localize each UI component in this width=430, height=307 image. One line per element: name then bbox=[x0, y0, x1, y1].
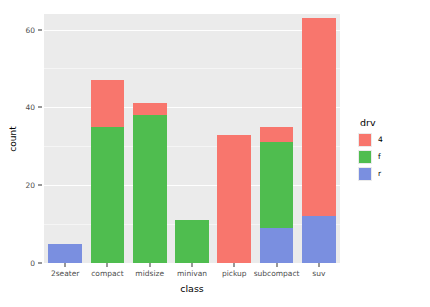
y-axis: count 0204060 bbox=[0, 14, 44, 263]
bar-group[interactable] bbox=[217, 14, 251, 263]
bar-chart: count 0204060 2seatercompactmidsizeminiv… bbox=[0, 0, 430, 307]
x-tick-label: subcompact bbox=[254, 269, 300, 278]
x-tick-label: suv bbox=[312, 269, 325, 278]
x-tick-mark bbox=[276, 263, 277, 267]
x-tick-mark bbox=[192, 263, 193, 267]
bar-segment-f[interactable] bbox=[133, 115, 167, 263]
bar-segment-4[interactable] bbox=[260, 127, 294, 143]
y-tick-label: 0 bbox=[30, 259, 35, 268]
x-tick-label: pickup bbox=[222, 269, 247, 278]
bar-segment-r[interactable] bbox=[260, 228, 294, 263]
y-tick-label: 60 bbox=[25, 25, 35, 34]
legend-label: f bbox=[378, 152, 381, 161]
y-tick-label: 20 bbox=[25, 181, 35, 190]
bar-segment-4[interactable] bbox=[91, 80, 125, 127]
legend-entries: 4fr bbox=[358, 132, 426, 181]
legend-title: drv bbox=[360, 117, 426, 128]
y-tick-mark bbox=[38, 29, 42, 30]
legend-key bbox=[358, 167, 372, 181]
legend-key bbox=[358, 150, 372, 164]
y-axis-title: count bbox=[8, 109, 18, 169]
legend-entry[interactable]: f bbox=[358, 149, 426, 164]
bar-segment-4[interactable] bbox=[133, 103, 167, 115]
legend: drv 4fr bbox=[358, 117, 426, 183]
bar-segment-f[interactable] bbox=[91, 127, 125, 263]
bar-segment-f[interactable] bbox=[175, 220, 209, 263]
bar-segment-f[interactable] bbox=[260, 142, 294, 228]
legend-swatch bbox=[359, 168, 371, 180]
legend-entry[interactable]: r bbox=[358, 166, 426, 181]
x-tick-mark bbox=[234, 263, 235, 267]
legend-swatch bbox=[359, 151, 371, 163]
bar-group[interactable] bbox=[91, 14, 125, 263]
bar-segment-r[interactable] bbox=[302, 216, 336, 263]
x-tick-label: 2seater bbox=[51, 269, 80, 278]
bar-group[interactable] bbox=[48, 14, 82, 263]
x-tick-label: compact bbox=[91, 269, 123, 278]
x-tick-mark bbox=[107, 263, 108, 267]
bar-group[interactable] bbox=[302, 14, 336, 263]
x-tick-mark bbox=[318, 263, 319, 267]
y-tick-mark bbox=[38, 263, 42, 264]
x-tick-mark bbox=[149, 263, 150, 267]
bar-segment-4[interactable] bbox=[302, 18, 336, 216]
x-axis-title: class bbox=[44, 283, 340, 294]
bar-group[interactable] bbox=[133, 14, 167, 263]
y-tick-mark bbox=[38, 107, 42, 108]
legend-label: 4 bbox=[378, 135, 383, 144]
legend-label: r bbox=[378, 169, 381, 178]
x-tick-mark bbox=[65, 263, 66, 267]
y-tick-label: 40 bbox=[25, 103, 35, 112]
bar-group[interactable] bbox=[260, 14, 294, 263]
legend-key bbox=[358, 133, 372, 147]
bar-series-layer bbox=[44, 14, 340, 263]
bar-group[interactable] bbox=[175, 14, 209, 263]
y-tick-mark bbox=[38, 185, 42, 186]
legend-entry[interactable]: 4 bbox=[358, 132, 426, 147]
x-tick-label: minivan bbox=[177, 269, 207, 278]
legend-swatch bbox=[359, 134, 371, 146]
x-tick-label: midsize bbox=[135, 269, 164, 278]
bar-segment-r[interactable] bbox=[48, 244, 82, 263]
bar-segment-4[interactable] bbox=[217, 135, 251, 263]
plot-panel bbox=[44, 14, 340, 263]
